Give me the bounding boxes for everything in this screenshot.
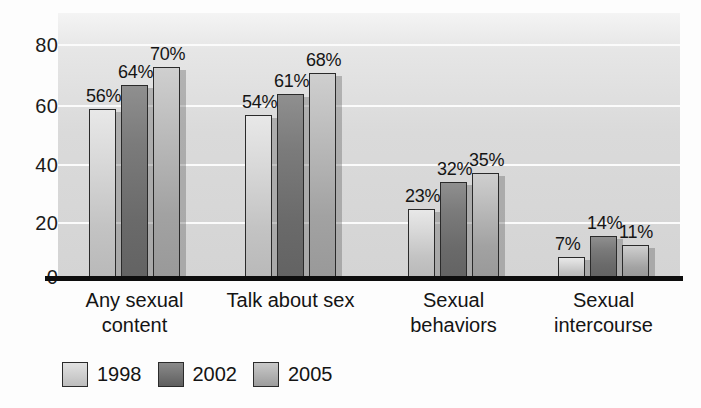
bar-value-label: 23% (405, 186, 440, 207)
bar-value-label: 64% (118, 62, 153, 83)
bar-value-label: 32% (437, 159, 472, 180)
bar-1998-4[interactable] (558, 257, 585, 278)
bar-2002-2[interactable] (277, 94, 304, 278)
bar-1998-3[interactable] (408, 209, 435, 278)
bar-value-label: 7% (555, 234, 581, 255)
legend: 199820022005 (62, 362, 349, 387)
bar-value-label: 35% (469, 150, 504, 171)
x-axis-line (45, 276, 683, 281)
y-axis-tick-60: 60 (12, 95, 58, 118)
legend-item-1998[interactable]: 1998 (62, 362, 142, 387)
legend-label: 2005 (288, 363, 333, 386)
legend-label: 2002 (193, 363, 238, 386)
category-label: Sexual intercourse (524, 288, 684, 338)
category-label: Talk about sex (211, 288, 371, 313)
bar-value-label: 70% (150, 44, 185, 65)
bar-value-label: 56% (86, 86, 121, 107)
legend-swatch-icon (158, 362, 184, 387)
bar-2002-4[interactable] (590, 236, 617, 278)
category-label: Any sexual content (55, 288, 215, 338)
bar-2002-1[interactable] (121, 85, 148, 278)
bar-2002-3[interactable] (440, 182, 467, 278)
legend-swatch-icon (62, 362, 88, 387)
legend-item-2005[interactable]: 2005 (253, 362, 333, 387)
bar-value-label: 14% (587, 213, 622, 234)
legend-label: 1998 (97, 363, 142, 386)
bar-value-label: 61% (274, 71, 309, 92)
bars-layer: 56%64%70%54%61%68%23%32%35%7%14%11% (58, 13, 680, 278)
legend-item-2002[interactable]: 2002 (158, 362, 238, 387)
y-axis-tick-20: 20 (12, 212, 58, 235)
bar-1998-1[interactable] (89, 109, 116, 278)
bar-value-label: 68% (306, 50, 341, 71)
bar-2005-2[interactable] (309, 73, 336, 278)
bar-2005-3[interactable] (472, 173, 499, 278)
bar-value-label: 11% (619, 222, 653, 243)
y-axis-tick-40: 40 (12, 154, 58, 177)
bar-chart: 80 60 40 20 0 56%64%70%54%61%68%23%32%35… (0, 0, 701, 408)
y-axis-tick-80: 80 (12, 34, 58, 57)
legend-swatch-icon (253, 362, 279, 387)
category-label: Sexual behaviors (374, 288, 534, 338)
bar-2005-4[interactable] (622, 245, 649, 278)
bar-1998-2[interactable] (245, 115, 272, 278)
bar-value-label: 54% (242, 92, 277, 113)
bar-2005-1[interactable] (153, 67, 180, 278)
